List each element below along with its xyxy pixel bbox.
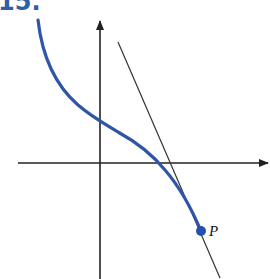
point-p — [196, 226, 206, 236]
tangent-line — [118, 42, 220, 278]
curve — [38, 20, 201, 231]
graph-figure: P — [0, 0, 270, 279]
point-p-label: P — [208, 223, 218, 239]
